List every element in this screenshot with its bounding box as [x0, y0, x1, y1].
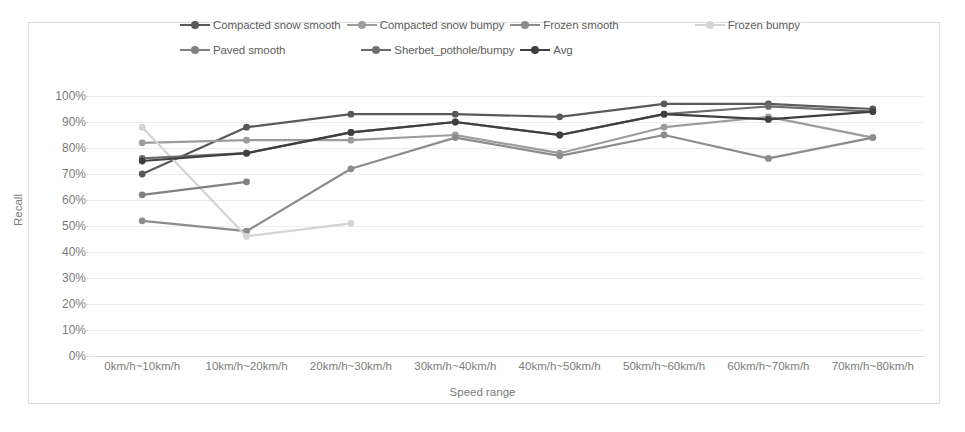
- legend-label: Sherbet_pothole/bumpy: [394, 44, 514, 56]
- y-axis-tick-mark: [84, 148, 89, 149]
- y-axis-tick-labels: 100%90%80%70%60%50%40%30%20%10%0%: [40, 96, 86, 356]
- x-axis-tick-label: 40km/h~50km/h: [519, 360, 601, 372]
- series-line: [142, 104, 873, 174]
- legend-marker-icon: [510, 19, 540, 31]
- data-point-marker: [452, 119, 459, 126]
- series-line: [142, 135, 873, 231]
- y-axis-tick-label: 80%: [62, 141, 86, 155]
- x-axis-tick-label: 10km/h~20km/h: [205, 360, 287, 372]
- data-point-marker: [661, 100, 668, 107]
- data-point-marker: [661, 132, 668, 139]
- data-point-marker: [348, 129, 355, 136]
- x-axis-tick-label: 60km/h~70km/h: [727, 360, 809, 372]
- x-axis-tick-labels: 0km/h~10km/h10km/h~20km/h20km/h~30km/h30…: [90, 360, 925, 382]
- y-axis-tick-mark: [84, 252, 89, 253]
- y-axis-tick-label: 100%: [55, 89, 86, 103]
- legend-item-3[interactable]: Frozen bumpy: [695, 19, 800, 31]
- data-point-marker: [348, 165, 355, 172]
- y-axis-tick-mark: [84, 96, 89, 97]
- data-point-marker: [556, 132, 563, 139]
- legend-item-0[interactable]: Compacted snow smooth: [180, 19, 341, 31]
- y-axis-title: Recall: [12, 194, 24, 226]
- data-point-marker: [556, 113, 563, 120]
- y-axis-tick-label: 10%: [62, 323, 86, 337]
- data-point-marker: [765, 116, 772, 123]
- data-point-marker: [765, 103, 772, 110]
- legend-item-5[interactable]: Sherbet_pothole/bumpy: [361, 44, 514, 56]
- data-point-marker: [348, 220, 355, 227]
- x-axis-tick-label: 20km/h~30km/h: [310, 360, 392, 372]
- data-point-marker: [139, 191, 146, 198]
- y-axis-tick-mark: [84, 200, 89, 201]
- x-axis-tick-label: 70km/h~80km/h: [832, 360, 914, 372]
- legend-row-1: Compacted snow smoothCompacted snow bump…: [180, 12, 920, 37]
- series-line: [142, 112, 873, 161]
- data-point-marker: [661, 111, 668, 118]
- y-axis-tick-mark: [84, 330, 89, 331]
- legend-item-2[interactable]: Frozen smooth: [510, 19, 618, 31]
- y-axis-tick-mark: [84, 304, 89, 305]
- x-axis-tick-label: 30km/h~40km/h: [414, 360, 496, 372]
- legend-label: Avg: [553, 44, 572, 56]
- x-axis-title: Speed range: [0, 386, 965, 398]
- legend-label: Compacted snow smooth: [213, 19, 341, 31]
- y-axis-tick-label: 60%: [62, 193, 86, 207]
- legend-row-2: Paved smoothSherbet_pothole/bumpyAvg: [180, 37, 920, 62]
- legend-item-1[interactable]: Compacted snow bumpy: [347, 19, 505, 31]
- gridline: [90, 356, 925, 357]
- legend-item-4[interactable]: Paved smooth: [180, 44, 285, 56]
- y-axis-tick-label: 30%: [62, 271, 86, 285]
- data-point-marker: [243, 233, 250, 240]
- data-point-marker: [556, 152, 563, 159]
- legend-item-6[interactable]: Avg: [520, 44, 572, 56]
- y-axis-tick-label: 20%: [62, 297, 86, 311]
- y-axis-tick-mark: [84, 174, 89, 175]
- data-point-marker: [243, 124, 250, 131]
- data-point-marker: [661, 124, 668, 131]
- plot-area: [90, 96, 925, 356]
- data-point-marker: [348, 111, 355, 118]
- x-axis-tick-label: 0km/h~10km/h: [104, 360, 180, 372]
- legend-label: Frozen smooth: [543, 19, 618, 31]
- legend-marker-icon: [361, 44, 391, 56]
- x-axis-tick-label: 50km/h~60km/h: [623, 360, 705, 372]
- data-point-marker: [139, 158, 146, 165]
- data-point-marker: [243, 150, 250, 157]
- y-axis-tick-label: 70%: [62, 167, 86, 181]
- data-point-marker: [139, 124, 146, 131]
- y-axis-tick-mark: [84, 226, 89, 227]
- y-axis-tick-mark: [84, 278, 89, 279]
- series-line: [142, 106, 873, 158]
- data-point-marker: [139, 139, 146, 146]
- legend-marker-icon: [520, 44, 550, 56]
- legend-marker-icon: [347, 19, 377, 31]
- chart-container: Compacted snow smoothCompacted snow bump…: [0, 0, 965, 432]
- data-point-marker: [139, 217, 146, 224]
- series-lines-layer: [90, 96, 925, 356]
- legend-marker-icon: [180, 44, 210, 56]
- y-axis-tick-mark: [84, 122, 89, 123]
- y-axis-tick-mark: [84, 356, 89, 357]
- data-point-marker: [452, 134, 459, 141]
- data-point-marker: [243, 137, 250, 144]
- chart-legend: Compacted snow smoothCompacted snow bump…: [180, 12, 920, 64]
- data-point-marker: [452, 111, 459, 118]
- data-point-marker: [243, 178, 250, 185]
- data-point-marker: [348, 137, 355, 144]
- y-axis-tick-label: 50%: [62, 219, 86, 233]
- data-point-marker: [869, 108, 876, 115]
- legend-label: Compacted snow bumpy: [380, 19, 505, 31]
- legend-label: Frozen bumpy: [728, 19, 800, 31]
- y-axis-tick-label: 90%: [62, 115, 86, 129]
- y-axis-tick-label: 40%: [62, 245, 86, 259]
- legend-marker-icon: [695, 19, 725, 31]
- legend-label: Paved smooth: [213, 44, 285, 56]
- legend-marker-icon: [180, 19, 210, 31]
- data-point-marker: [139, 171, 146, 178]
- data-point-marker: [869, 134, 876, 141]
- data-point-marker: [765, 155, 772, 162]
- series-line: [142, 182, 246, 195]
